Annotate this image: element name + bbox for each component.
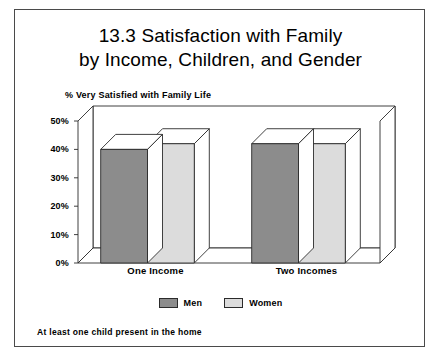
bar-front-face: [252, 144, 299, 263]
legend-entry-women[interactable]: Women: [224, 298, 282, 308]
bar-side-face: [148, 134, 163, 263]
y-tick-label: 30%: [29, 173, 69, 183]
y-tick-label: 10%: [29, 230, 69, 240]
y-tick-label: 0%: [29, 258, 69, 268]
legend-swatch-men: [159, 298, 178, 308]
legend-label: Women: [249, 298, 282, 308]
y-tick-label: 50%: [29, 116, 69, 126]
bar-side-face: [194, 129, 209, 263]
bar-men-two-incomes: [252, 129, 314, 263]
left-wall: [78, 106, 93, 263]
legend-swatch-women: [224, 298, 243, 308]
bar-side-face: [299, 129, 314, 263]
bar-side-face: [345, 129, 360, 263]
x-category-label: One Income: [91, 265, 221, 276]
x-category-label: Two Incomes: [242, 265, 372, 276]
bar-men-one-income: [101, 134, 163, 263]
figure-frame: 13.3 Satisfaction with Family by Income,…: [14, 9, 425, 347]
right-wall: [380, 106, 395, 263]
chart-legend: MenWomen: [15, 298, 426, 308]
legend-label: Men: [184, 298, 203, 308]
legend-entry-men[interactable]: Men: [159, 298, 203, 308]
chart-footnote: At least one child present in the home: [37, 327, 202, 337]
y-tick-label: 40%: [29, 144, 69, 154]
bar-front-face: [101, 149, 148, 263]
y-tick-label: 20%: [29, 201, 69, 211]
